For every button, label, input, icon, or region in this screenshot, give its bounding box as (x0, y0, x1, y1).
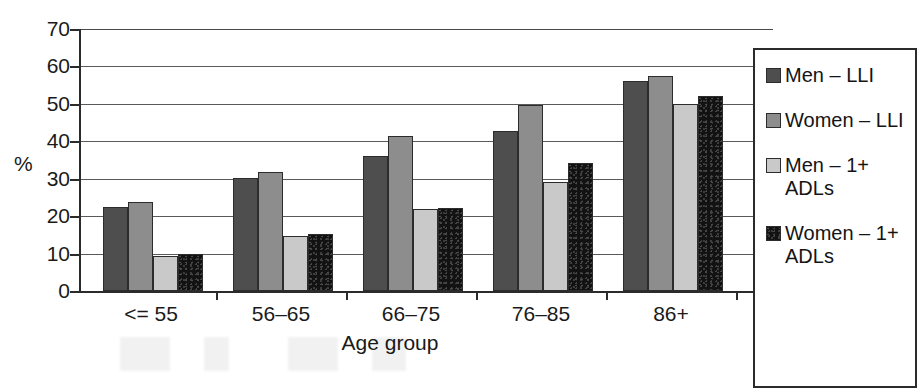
y-axis-tick-label: 60 (26, 54, 70, 78)
y-axis-tick-mark (70, 179, 79, 181)
bar (543, 182, 568, 291)
legend-item: Women – LLI (766, 109, 915, 132)
x-axis-tick-mark (216, 291, 218, 300)
y-axis-tick-label: 0 (26, 279, 70, 303)
bar (128, 202, 153, 291)
legend-swatch-icon (766, 113, 781, 128)
y-axis-tick-mark (70, 104, 79, 106)
x-axis-tick-label: 66–75 (341, 302, 481, 326)
legend-item: Men – LLI (766, 64, 915, 87)
page-bleed-artifact (120, 337, 540, 371)
bar-group (233, 29, 333, 291)
bar (623, 81, 648, 291)
legend-swatch-icon (766, 158, 781, 173)
x-axis-tick-mark (346, 291, 348, 300)
bar-group (623, 29, 723, 291)
plot-area (79, 29, 773, 293)
y-axis-tick-mark (70, 254, 79, 256)
legend-label: Women – LLI (785, 109, 904, 132)
y-axis-tick-label: 10 (26, 242, 70, 266)
y-axis-tick-labels: 010203040506070 (18, 0, 70, 379)
x-axis-tick-label: <= 55 (81, 302, 221, 326)
x-axis-tick-mark (606, 291, 608, 300)
bar (413, 209, 438, 291)
y-axis-tick-label: 50 (26, 92, 70, 116)
y-axis-tick-label: 20 (26, 204, 70, 228)
bar-group (363, 29, 463, 291)
x-axis-tick-label: 76–85 (471, 302, 611, 326)
legend-label: Men – LLI (785, 64, 874, 87)
bar (153, 256, 178, 291)
bar (698, 96, 723, 291)
bar-series-container (81, 29, 773, 291)
legend-label: Men – 1+ ADLs (785, 154, 913, 200)
bar (568, 163, 593, 291)
bar-group (493, 29, 593, 291)
legend-swatch-icon (766, 68, 781, 83)
y-axis-tick-label: 40 (26, 129, 70, 153)
bar (438, 208, 463, 291)
legend-swatch-icon (766, 226, 781, 241)
bar (363, 156, 388, 291)
bar (308, 234, 333, 291)
legend-item: Men – 1+ ADLs (766, 154, 915, 200)
bar (258, 172, 283, 291)
legend-label: Women – 1+ ADLs (785, 222, 913, 268)
y-axis-tick-mark (70, 29, 79, 31)
x-axis-tick-mark (476, 291, 478, 300)
bar (388, 136, 413, 291)
bar-group (103, 29, 203, 291)
x-axis-tick-label: 86+ (601, 302, 741, 326)
bar (178, 254, 203, 291)
y-axis-tick-mark (70, 141, 79, 143)
x-axis-tick-label: 56–65 (211, 302, 351, 326)
legend-item: Women – 1+ ADLs (766, 222, 915, 268)
y-axis-tick-label: 30 (26, 167, 70, 191)
bar (103, 207, 128, 291)
bar (233, 178, 258, 291)
y-axis-tick-mark (70, 291, 79, 293)
bar (493, 131, 518, 291)
y-axis-tick-mark (70, 216, 79, 218)
chart-legend: Men – LLIWomen – LLIMen – 1+ ADLsWomen –… (753, 48, 917, 388)
bar (518, 105, 543, 291)
y-axis-tick-label: 70 (26, 17, 70, 41)
x-axis-tick-mark (736, 291, 738, 300)
y-axis-tick-mark (70, 66, 79, 68)
bar (673, 104, 698, 291)
bar (283, 236, 308, 291)
bar (648, 76, 673, 291)
